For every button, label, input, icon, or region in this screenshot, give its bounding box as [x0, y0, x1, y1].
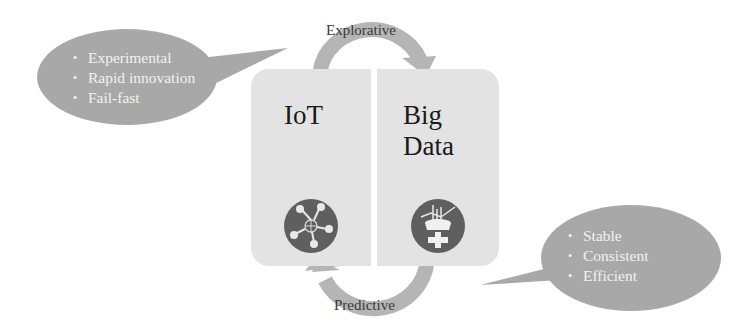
item-efficient: Efficient: [583, 267, 637, 284]
right-bubble-item: •Consistent: [565, 246, 648, 266]
iot-panel: IoT: [251, 69, 371, 266]
left-bubble-list: •Experimental •Rapid innovation •Fail-fa…: [70, 48, 195, 108]
item-fail-fast: Fail-fast: [88, 89, 140, 106]
item-stable: Stable: [583, 227, 622, 244]
left-bubble-item: •Rapid innovation: [70, 68, 195, 88]
right-bubble-list: •Stable •Consistent •Efficient: [565, 226, 648, 286]
bullet: •: [73, 68, 77, 88]
explorative-label: Explorative: [326, 22, 396, 39]
iot-network-icon: [284, 199, 338, 253]
bullet: •: [73, 88, 77, 108]
item-experimental: Experimental: [88, 49, 172, 66]
big-data-title-line1: Big: [403, 100, 442, 131]
big-data-title-line2: Data: [403, 131, 454, 162]
iot-title: IoT: [284, 100, 323, 131]
big-data-panel: Big Data: [377, 69, 499, 266]
bullet: •: [568, 226, 572, 246]
item-rapid-innovation: Rapid innovation: [88, 69, 195, 86]
item-consistent: Consistent: [583, 247, 648, 264]
bullet: •: [568, 246, 572, 266]
right-bubble-item: •Efficient: [565, 266, 648, 286]
bullet: •: [568, 266, 572, 286]
big-data-analytics-icon: [411, 199, 465, 253]
predictive-label: Predictive: [334, 297, 395, 314]
right-bubble-item: •Stable: [565, 226, 648, 246]
left-bubble-item: •Experimental: [70, 48, 195, 68]
bullet: •: [73, 48, 77, 68]
left-bubble-item: •Fail-fast: [70, 88, 195, 108]
